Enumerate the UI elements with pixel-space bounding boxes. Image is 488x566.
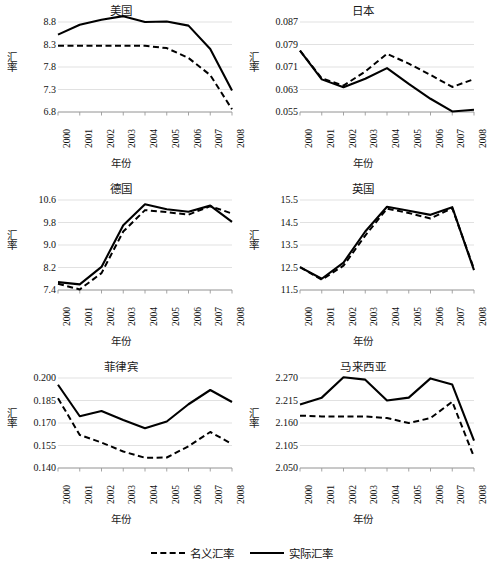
series-line-2 [58, 46, 232, 109]
x-tick-label: 2006 [193, 307, 203, 326]
x-tick-label: 2008 [478, 307, 488, 326]
x-tick-label: 2001 [326, 129, 336, 148]
x-tick-label: 2003 [369, 129, 379, 148]
x-tick-label: 2002 [106, 485, 116, 504]
x-tick-label: 2000 [62, 307, 72, 326]
x-tick-label: 2005 [171, 129, 181, 148]
legend-label: 实际汇率 [289, 545, 333, 561]
plot-area [0, 0, 242, 178]
x-tick-label: 2007 [214, 485, 224, 504]
x-tick-label: 2007 [214, 129, 224, 148]
x-tick-label: 2002 [348, 129, 358, 148]
x-tick-label: 2007 [456, 485, 466, 504]
panel-grid: 美国汇率年份6.87.37.88.38.82000200120022003200… [0, 0, 484, 534]
plot-area [242, 356, 484, 534]
x-tick-label: 2008 [478, 485, 488, 504]
x-tick-label: 2002 [348, 307, 358, 326]
plot-area [242, 0, 484, 178]
x-tick-label: 2008 [478, 129, 488, 148]
series-line-1 [300, 207, 474, 279]
x-tick-label: 2005 [171, 307, 181, 326]
legend-swatch-solid [250, 552, 284, 554]
legend-item-1: 名义汇率 [151, 545, 234, 561]
x-tick-label: 2004 [391, 129, 401, 148]
x-tick-label: 2000 [304, 485, 314, 504]
x-tick-label: 2005 [413, 485, 423, 504]
x-tick-label: 2001 [326, 485, 336, 504]
x-tick-label: 2006 [193, 129, 203, 148]
x-tick-label: 2000 [62, 485, 72, 504]
series-line-2 [58, 206, 232, 289]
x-tick-label: 2005 [171, 485, 181, 504]
x-tick-label: 2005 [413, 307, 423, 326]
gridlines [300, 22, 474, 112]
figure-legend: 名义汇率实际汇率 [0, 540, 484, 566]
series-line-1 [58, 16, 232, 90]
x-tick-label: 2006 [435, 129, 445, 148]
chart-panel-5: 菲律宾汇率年份0.1400.1550.1700.1850.20020002001… [0, 356, 242, 534]
legend-label: 名义汇率 [190, 545, 234, 561]
x-tick-label: 2006 [193, 485, 203, 504]
chart-panel-4: 英国汇率年份11.512.513.514.515.520002001200220… [242, 178, 484, 356]
plot-area [0, 178, 242, 356]
x-tick-label: 2004 [149, 129, 159, 148]
x-tick-label: 2001 [326, 307, 336, 326]
x-tick-label: 2007 [456, 129, 466, 148]
x-tick-label: 2000 [304, 307, 314, 326]
legend-item-2: 实际汇率 [250, 545, 333, 561]
x-tick-label: 2000 [62, 129, 72, 148]
x-tick-label: 2003 [127, 307, 137, 326]
x-tick-label: 2001 [84, 129, 94, 148]
x-tick-label: 2001 [84, 485, 94, 504]
x-tick-label: 2004 [391, 485, 401, 504]
chart-panel-3: 德国汇率年份7.48.29.09.810.6200020012002200320… [0, 178, 242, 356]
x-tick-label: 2003 [127, 485, 137, 504]
x-tick-label: 2001 [84, 307, 94, 326]
legend-swatch-dashed [151, 552, 185, 554]
x-tick-label: 2003 [127, 129, 137, 148]
plot-area [242, 178, 484, 356]
x-tick-label: 2000 [304, 129, 314, 148]
x-tick-label: 2002 [348, 485, 358, 504]
plot-area [0, 356, 242, 534]
x-tick-label: 2003 [369, 307, 379, 326]
x-tick-label: 2004 [391, 307, 401, 326]
x-tick-label: 2002 [106, 307, 116, 326]
series-line-1 [300, 51, 474, 112]
x-tick-label: 2006 [435, 307, 445, 326]
x-tick-label: 2004 [149, 485, 159, 504]
x-tick-label: 2003 [369, 485, 379, 504]
series-line-1 [58, 385, 232, 429]
series-line-2 [300, 402, 474, 457]
x-tick-label: 2007 [214, 307, 224, 326]
x-tick-label: 2002 [106, 129, 116, 148]
gridlines [58, 22, 232, 112]
series-line-2 [300, 208, 474, 280]
chart-panel-2: 日本汇率年份0.0550.0630.0710.0790.087200020012… [242, 0, 484, 178]
x-tick-label: 2007 [456, 307, 466, 326]
gridlines [58, 378, 232, 468]
x-tick-label: 2005 [413, 129, 423, 148]
chart-panel-6: 马来西亚汇率年份2.0502.1052.1602.2152.2702000200… [242, 356, 484, 534]
x-tick-label: 2004 [149, 307, 159, 326]
gridlines [58, 200, 232, 290]
series-line-1 [58, 204, 232, 284]
series-line-1 [300, 377, 474, 440]
gridlines [300, 378, 474, 468]
chart-panel-1: 美国汇率年份6.87.37.88.38.82000200120022003200… [0, 0, 242, 178]
x-tick-label: 2006 [435, 485, 445, 504]
